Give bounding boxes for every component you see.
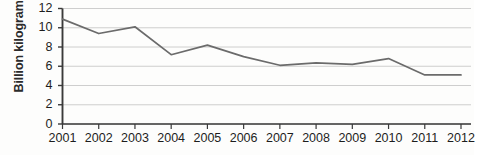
- x-axis-tick-label: 2005: [187, 132, 227, 145]
- y-axis-tick-label: 12: [29, 2, 53, 14]
- x-axis-tick-label: 2010: [369, 132, 409, 145]
- x-axis-tick-label: 2007: [260, 132, 300, 145]
- x-axis-tick-label: 2003: [115, 132, 155, 145]
- y-axis-tick-label: 0: [29, 118, 53, 130]
- x-axis-tick-label: 2012: [441, 132, 479, 145]
- x-axis-tick-label: 2004: [151, 132, 191, 145]
- x-axis-tick-label: 2009: [332, 132, 372, 145]
- x-axis-tick-label: 2008: [296, 132, 336, 145]
- gridlines-group: [63, 9, 472, 125]
- x-axis-tick-label: 2011: [405, 132, 445, 145]
- y-axis-tick-label: 6: [29, 60, 53, 72]
- x-axis-tick-label: 2001: [43, 132, 83, 145]
- y-axis-tick-label: 8: [29, 41, 53, 53]
- y-axis-tick-label: 2: [29, 98, 53, 110]
- y-axis-tick-label: 4: [29, 79, 53, 91]
- y-axis-tick-label: 10: [29, 21, 53, 33]
- x-axis-tick-label: 2006: [224, 132, 264, 145]
- x-axis-tick-label: 2002: [79, 132, 119, 145]
